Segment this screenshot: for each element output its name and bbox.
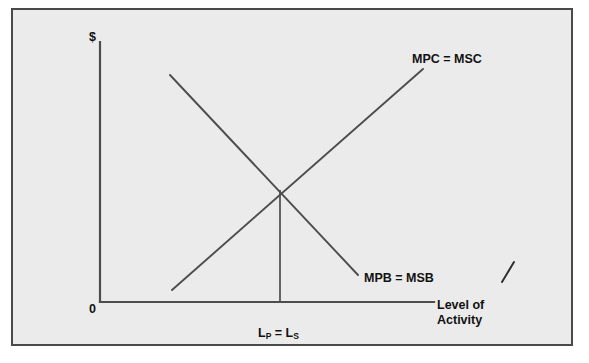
equilibrium-point-label: LP = LS <box>258 326 299 341</box>
origin-label: 0 <box>89 302 96 317</box>
equilibrium-sub-p: P <box>266 331 272 341</box>
mpb-msb-curve <box>170 75 358 275</box>
equilibrium-equals: = <box>271 326 285 340</box>
mpb-msb-curve-label: MPB = MSB <box>364 271 434 286</box>
x-axis-label: Level of Activity <box>437 298 484 328</box>
mpc-msc-curve-label: MPC = MSC <box>412 52 482 67</box>
x-axis-label-line2: Activity <box>437 313 484 328</box>
y-axis-label: $ <box>89 30 96 45</box>
diagonal-tick-mark-icon <box>502 262 514 282</box>
figure-frame: $ 0 MPC = MSC MPB = MSB Level of Activit… <box>11 8 573 346</box>
mpc-msc-curve <box>172 69 423 290</box>
diagram-canvas <box>13 10 575 348</box>
equilibrium-l1: L <box>258 326 266 340</box>
x-axis-label-line1: Level of <box>437 298 484 312</box>
equilibrium-sub-s: S <box>293 331 299 341</box>
